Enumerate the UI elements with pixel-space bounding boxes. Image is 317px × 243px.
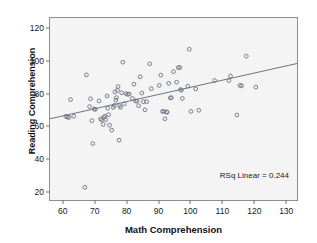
y-tick-mark (46, 93, 50, 94)
data-point (235, 113, 239, 117)
data-point (175, 80, 179, 84)
data-point (254, 85, 258, 89)
data-point (148, 62, 152, 66)
y-tick-mark (46, 60, 50, 61)
y-tick-mark (46, 192, 50, 193)
data-point (138, 75, 142, 79)
data-point (163, 117, 167, 121)
data-point (137, 104, 141, 108)
data-point (91, 142, 95, 146)
x-tick-mark (222, 200, 223, 204)
scatter-plot-figure: Reading Comprehension 20406080100120 607… (0, 0, 317, 243)
data-point (189, 110, 193, 114)
data-point (88, 105, 92, 109)
x-tick-mark (62, 200, 63, 204)
x-tick-mark (286, 200, 287, 204)
regression-line (50, 64, 297, 119)
y-tick-mark (46, 27, 50, 28)
data-point (117, 138, 121, 142)
data-point (132, 82, 136, 86)
data-point (244, 54, 248, 58)
y-tick-mark (46, 159, 50, 160)
data-point (194, 87, 198, 91)
data-point (105, 94, 109, 98)
data-point (110, 128, 114, 132)
data-point (120, 91, 124, 95)
x-tick-mark (190, 200, 191, 204)
data-point (159, 73, 163, 77)
data-point (85, 73, 89, 77)
x-axis-title: Math Comprehension (49, 224, 298, 235)
data-point (106, 106, 110, 110)
data-point (97, 99, 101, 103)
data-point (229, 74, 233, 78)
data-point (187, 47, 191, 51)
x-tick-mark (158, 200, 159, 204)
data-point (116, 85, 120, 89)
data-point (197, 108, 201, 112)
y-tick-mark (46, 126, 50, 127)
data-point (108, 123, 112, 127)
data-point (157, 84, 161, 88)
data-point (227, 79, 231, 83)
data-point (167, 81, 171, 85)
x-tick-mark (94, 200, 95, 204)
plot-area: 20406080100120 60708090100110120130 RSq … (49, 17, 298, 201)
data-point (172, 70, 176, 74)
data-point (143, 108, 147, 112)
data-point (149, 87, 153, 91)
data-point (83, 185, 87, 189)
x-tick-mark (126, 200, 127, 204)
data-point (115, 96, 119, 100)
data-point (72, 114, 76, 118)
data-point (101, 123, 105, 127)
x-tick-mark (254, 200, 255, 204)
data-point (140, 91, 144, 95)
data-point (69, 98, 73, 102)
data-point (89, 97, 93, 101)
data-point (107, 113, 111, 117)
rsq-annotation: RSq Linear = 0.244 (220, 171, 289, 180)
data-point (121, 60, 125, 64)
data-point (90, 119, 94, 123)
data-point (180, 97, 184, 101)
